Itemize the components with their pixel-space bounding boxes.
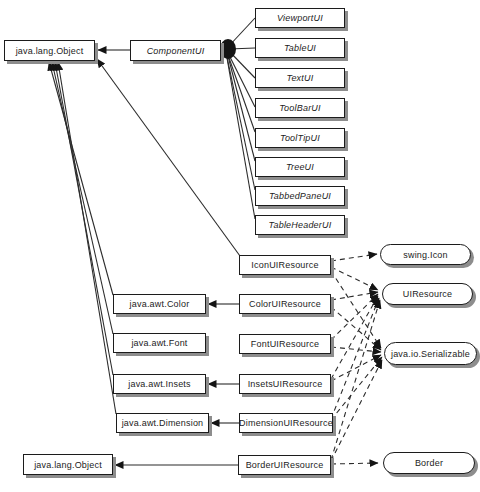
node-awt-dimension: java.awt.Dimension bbox=[116, 413, 209, 433]
node-viewportui: ViewportUI bbox=[255, 8, 345, 28]
node-label-object-top: java.lang.Object bbox=[16, 46, 84, 56]
node-label-tableui: TableUI bbox=[284, 43, 316, 53]
node-label-fontuiresource: FontUIResource bbox=[251, 339, 319, 349]
node-tableheaderui: TableHeaderUI bbox=[255, 215, 345, 235]
node-label-iconuiresource: IconUIResource bbox=[251, 260, 318, 270]
edge-tabbedpaneui-to-componentui bbox=[227, 57, 255, 190]
edge-coloruiresource-to-serializable bbox=[331, 307, 381, 350]
node-label-coloruiresource: ColorUIResource bbox=[249, 299, 321, 309]
node-object-top: java.lang.Object bbox=[4, 40, 95, 61]
node-label-awt-insets: java.awt.Insets bbox=[128, 379, 191, 389]
node-label-awt-font: java.awt.Font bbox=[131, 338, 187, 348]
node-label-insetsuiresource: InsetsUIResource bbox=[248, 379, 323, 389]
node-object-bottom: java.lang.Object bbox=[23, 454, 113, 475]
node-label-toolbarui: ToolBarUI bbox=[279, 103, 321, 113]
node-toolbarui: ToolBarUI bbox=[255, 98, 345, 118]
node-label-dimensionuiresource: DimensionUIResource bbox=[239, 418, 333, 428]
node-componentui: ComponentUI bbox=[130, 40, 221, 61]
node-label-border: Border bbox=[415, 458, 443, 468]
node-iconuiresource: IconUIResource bbox=[239, 255, 331, 275]
node-coloruiresource: ColorUIResource bbox=[239, 294, 331, 314]
node-fontuiresource: FontUIResource bbox=[239, 334, 331, 354]
edge-fontuiresource-to-serializable bbox=[331, 347, 381, 352]
node-tableui: TableUI bbox=[255, 38, 345, 58]
node-swing-icon: swing.Icon bbox=[380, 244, 471, 265]
node-treeui: TreeUI bbox=[255, 157, 345, 177]
node-label-serializable: java.io.Serializable bbox=[391, 349, 470, 359]
node-tabbedpaneui: TabbedPaneUI bbox=[255, 186, 345, 206]
node-label-treeui: TreeUI bbox=[286, 162, 314, 172]
edge-borderuiresource-to-uiresource bbox=[331, 300, 380, 460]
edge-awt-dimension-to-object-top bbox=[58, 62, 116, 414]
node-label-tooltipui: ToolTipUI bbox=[280, 133, 320, 143]
edge-coloruiresource-to-uiresource bbox=[331, 292, 378, 300]
node-label-tableheaderui: TableHeaderUI bbox=[269, 220, 332, 230]
edge-awt-color-to-object-top bbox=[49, 62, 113, 295]
node-label-componentui: ComponentUI bbox=[147, 46, 205, 56]
edge-tooltipui-to-componentui bbox=[228, 55, 255, 132]
edge-dimensionuiresource-to-uiresource bbox=[331, 298, 379, 419]
node-label-tabbedpaneui: TabbedPaneUI bbox=[269, 191, 331, 201]
node-label-textui: TextUI bbox=[287, 73, 314, 83]
node-border: Border bbox=[383, 452, 475, 474]
node-insetsuiresource: InsetsUIResource bbox=[239, 374, 331, 394]
node-label-awt-dimension: java.awt.Dimension bbox=[122, 418, 204, 428]
class-hierarchy-diagram: java.lang.ObjectComponentUIViewportUITab… bbox=[0, 0, 480, 492]
node-serializable: java.io.Serializable bbox=[384, 342, 477, 365]
node-awt-insets: java.awt.Insets bbox=[113, 374, 206, 394]
node-label-swing-icon: swing.Icon bbox=[403, 250, 448, 260]
node-label-viewportui: ViewportUI bbox=[277, 13, 323, 23]
edge-treeui-to-componentui bbox=[228, 56, 255, 161]
node-label-borderuiresource: BorderUIResource bbox=[246, 460, 324, 470]
edge-iconuiresource-to-serializable bbox=[331, 271, 381, 348]
node-label-awt-color: java.awt.Color bbox=[130, 299, 190, 309]
node-awt-font: java.awt.Font bbox=[113, 333, 206, 353]
node-awt-color: java.awt.Color bbox=[113, 294, 206, 314]
fan-in-junction-blob bbox=[220, 39, 236, 59]
edge-iconuiresource-to-object-top bbox=[97, 59, 240, 256]
edge-awt-font-to-object-top bbox=[52, 62, 113, 334]
node-label-uiresource: UIResource bbox=[403, 289, 453, 299]
edge-iconuiresource-to-swing-icon bbox=[331, 254, 377, 261]
node-textui: TextUI bbox=[255, 68, 345, 88]
edge-tableheaderui-to-componentui bbox=[227, 58, 255, 219]
node-label-object-bottom: java.lang.Object bbox=[34, 460, 102, 470]
edge-iconuiresource-to-uiresource bbox=[331, 267, 378, 290]
node-borderuiresource: BorderUIResource bbox=[238, 455, 331, 475]
node-dimensionuiresource: DimensionUIResource bbox=[239, 413, 333, 433]
edge-borderuiresource-to-border bbox=[331, 463, 378, 464]
node-tooltipui: ToolTipUI bbox=[255, 128, 345, 148]
edge-insetsuiresource-to-uiresource bbox=[331, 296, 378, 379]
node-uiresource: UIResource bbox=[382, 283, 473, 305]
